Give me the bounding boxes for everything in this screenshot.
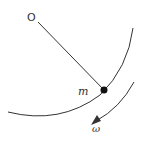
- circular-path: [8, 28, 133, 116]
- pendulum-diagram: O m ω: [0, 0, 144, 146]
- rod: [38, 22, 104, 90]
- diagram-graphics: [0, 0, 144, 146]
- pivot-label: O: [27, 12, 36, 23]
- mass-point: [101, 87, 108, 94]
- angular-velocity-label: ω: [92, 124, 100, 134]
- mass-label: m: [78, 86, 88, 97]
